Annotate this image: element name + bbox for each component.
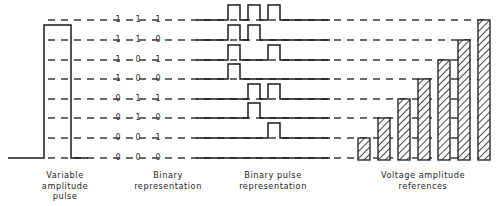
bit-r0-c3: 0	[153, 153, 163, 162]
bit-r1-c3: 1	[153, 133, 163, 142]
bit-r4-c2: 0	[133, 74, 143, 83]
bit-r1-c1: 0	[113, 133, 123, 142]
bit-r2-c1: 0	[113, 113, 123, 122]
reference-bar-7	[478, 20, 490, 160]
caption-binary-representation: Binary representation	[116, 170, 220, 191]
binary-pulse-waveforms	[196, 5, 330, 158]
bit-r0-c1: 0	[113, 153, 123, 162]
bit-r5-c3: 1	[153, 55, 163, 64]
bit-r1-c2: 0	[133, 133, 143, 142]
bit-r5-c2: 0	[133, 55, 143, 64]
reference-bar-2	[378, 118, 390, 160]
reference-bar-6	[458, 40, 470, 160]
bit-r3-c1: 0	[113, 94, 123, 103]
bit-r7-c1: 1	[113, 15, 123, 24]
caption-binary-pulse-representation: Binary pulse representation	[218, 170, 328, 191]
pulse-waveform-5	[196, 45, 330, 60]
reference-bar-1	[358, 138, 370, 160]
bit-r7-c2: 1	[133, 15, 143, 24]
bit-r3-c3: 1	[153, 94, 163, 103]
bit-r6-c3: 0	[153, 35, 163, 44]
pulse-waveform-3	[196, 84, 330, 99]
reference-bar-4	[418, 79, 430, 160]
reference-bar-3	[398, 99, 410, 160]
pulse-waveform-2	[196, 103, 330, 118]
pulse-waveform-4	[196, 64, 330, 79]
pulse-waveform-1	[196, 123, 330, 138]
bit-r6-c2: 1	[133, 35, 143, 44]
bit-r6-c1: 1	[113, 35, 123, 44]
voltage-reference-bars	[358, 20, 490, 160]
pcm-quantization-figure: 111110101100011010001000 Variable amplit…	[0, 0, 496, 206]
bit-r7-c3: 1	[153, 15, 163, 24]
pulse-waveform-6	[196, 25, 330, 40]
caption-voltage-amplitude-references: Voltage amplitude references	[352, 170, 494, 191]
bit-r4-c3: 0	[153, 74, 163, 83]
bit-r3-c2: 1	[133, 94, 143, 103]
caption-variable-amplitude-pulse: Variable amplitude pulse	[24, 170, 106, 202]
bit-r2-c2: 1	[133, 113, 143, 122]
bit-r2-c3: 0	[153, 113, 163, 122]
bit-r5-c1: 1	[113, 55, 123, 64]
bit-r4-c1: 1	[113, 74, 123, 83]
reference-bar-5	[438, 60, 450, 160]
bit-r0-c2: 0	[133, 153, 143, 162]
pulse-waveform-7	[196, 5, 330, 20]
